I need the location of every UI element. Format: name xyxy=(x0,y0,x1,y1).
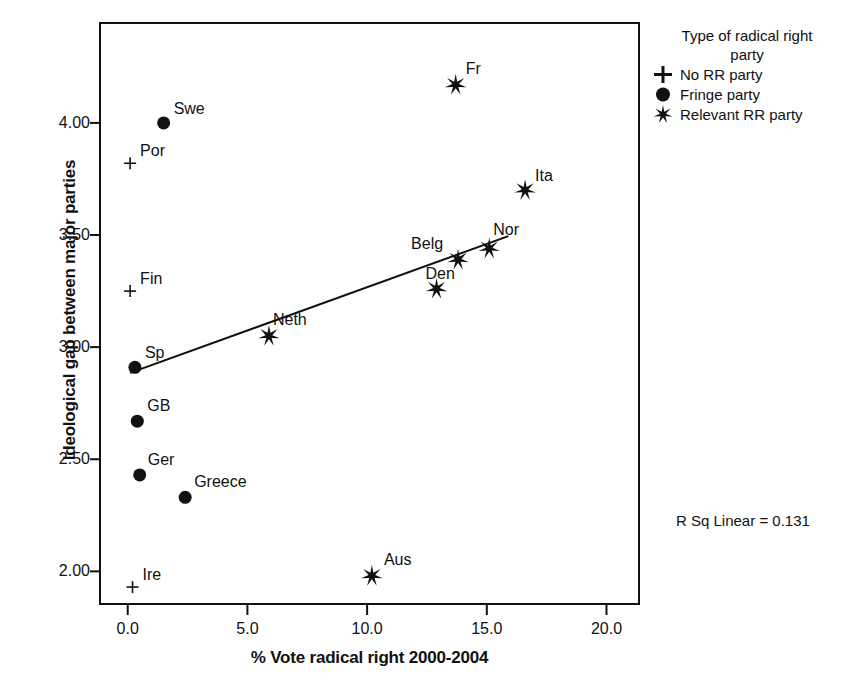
data-point-greece[interactable] xyxy=(176,488,194,506)
data-point-den[interactable] xyxy=(428,280,446,298)
point-label-ire: Ire xyxy=(143,567,162,583)
legend-entry-label: Relevant RR party xyxy=(680,105,803,124)
data-point-ita[interactable] xyxy=(516,181,534,199)
legend-entry-2[interactable]: Relevant RR party xyxy=(652,105,842,124)
r-squared-annotation: R Sq Linear = 0.131 xyxy=(676,512,810,529)
point-label-ger: Ger xyxy=(148,452,175,468)
legend-entry-0[interactable]: No RR party xyxy=(652,65,842,84)
dot-icon xyxy=(652,85,674,104)
legend-entry-label: No RR party xyxy=(680,65,763,84)
point-label-greece: Greece xyxy=(194,474,246,490)
legend-title-line-2: party xyxy=(652,45,842,64)
point-label-fr: Fr xyxy=(466,61,481,77)
star-icon xyxy=(652,105,674,124)
point-label-por: Por xyxy=(140,143,165,159)
data-point-gb[interactable] xyxy=(128,412,146,430)
point-label-fin: Fin xyxy=(140,271,162,287)
chart-canvas: Ideological gap between major parties % … xyxy=(0,0,842,694)
data-point-sp[interactable] xyxy=(126,358,144,376)
data-point-por[interactable] xyxy=(121,154,139,172)
legend-title-line-1: Type of radical right xyxy=(652,26,842,45)
point-label-den: Den xyxy=(426,266,455,282)
data-point-aus[interactable] xyxy=(363,567,381,585)
legend-entry-label: Fringe party xyxy=(680,85,760,104)
point-label-swe: Swe xyxy=(174,101,205,117)
data-point-nor[interactable] xyxy=(480,239,498,257)
point-label-sp: Sp xyxy=(145,345,165,361)
point-label-ita: Ita xyxy=(535,168,553,184)
data-point-swe[interactable] xyxy=(155,114,173,132)
point-label-aus: Aus xyxy=(384,552,412,568)
data-point-fr[interactable] xyxy=(447,76,465,94)
point-label-neth: Neth xyxy=(273,312,307,328)
point-label-belg: Belg xyxy=(411,236,443,252)
legend-entry-1[interactable]: Fringe party xyxy=(652,85,842,104)
point-label-nor: Nor xyxy=(493,222,519,238)
data-point-ger[interactable] xyxy=(131,466,149,484)
point-label-gb: GB xyxy=(147,398,170,414)
data-point-neth[interactable] xyxy=(260,327,278,345)
data-point-fin[interactable] xyxy=(121,282,139,300)
data-point-ire[interactable] xyxy=(124,578,142,596)
plus-icon xyxy=(652,65,674,84)
legend: Type of radical right party No RR partyF… xyxy=(652,26,842,124)
